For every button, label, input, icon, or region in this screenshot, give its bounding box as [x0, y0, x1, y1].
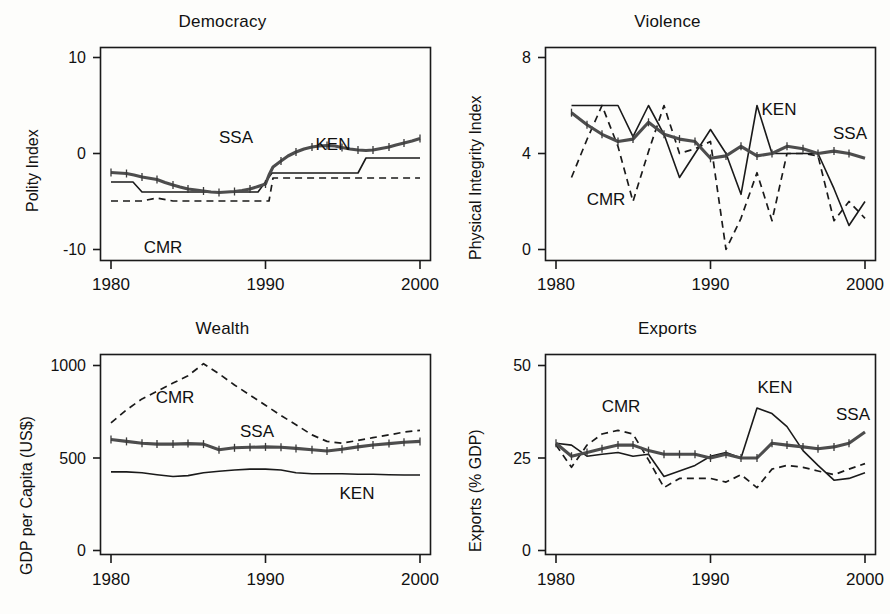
x-tick-label: 1990 [692, 570, 730, 589]
x-tick-label: 2000 [401, 275, 439, 294]
y-tick-label: 50 [513, 357, 531, 374]
series-annotation-cmr: CMR [587, 190, 626, 209]
x-tick-label: 1980 [92, 570, 130, 589]
plot-area-wealth: 1000 500 0 1980 1990 2000 [0, 307, 445, 614]
y-tick-label: 0 [77, 145, 86, 162]
panel-wealth: Wealth GDP per Capita (US$) 1000 500 0 1… [0, 307, 445, 614]
plot-area-violence: 8 4 0 1980 1990 2000 [445, 0, 890, 307]
y-tick-label: 10 [68, 49, 86, 66]
x-tick-label: 2000 [401, 570, 439, 589]
x-tick-label: 1980 [92, 275, 130, 294]
panel-democracy: Democracy Polity Index 10 0 -10 [0, 0, 445, 307]
series-annotation-ken: KEN [762, 100, 797, 119]
y-tick-label: -10 [63, 241, 86, 258]
series-annotation-ken: KEN [340, 484, 375, 503]
series-annotation-ssa: SSA [240, 422, 275, 441]
y-tick-label: 0 [522, 542, 531, 559]
x-tick-label: 1990 [247, 275, 285, 294]
series-annotation-ssa: SSA [833, 124, 868, 143]
x-tick-label: 2000 [846, 275, 884, 294]
series-annotation-cmr: CMR [156, 388, 195, 407]
series-line-ssa [111, 135, 420, 197]
plot-area-democracy: 10 0 -10 1980 1990 2000 [0, 0, 445, 307]
y-axis-ticks [538, 366, 546, 551]
x-tick-label: 1990 [247, 570, 285, 589]
series-annotation-ken: KEN [758, 378, 793, 397]
y-tick-label: 0 [77, 542, 86, 559]
series-line-ken [556, 408, 865, 480]
series-annotation-ssa: SSA [836, 405, 871, 424]
y-axis-ticks [93, 58, 101, 250]
series-ssa-point-markers [111, 135, 420, 197]
axes-frame [546, 48, 876, 261]
series-annotation-cmr: CMR [602, 397, 641, 416]
series-annotation-cmr: CMR [144, 238, 183, 257]
multi-panel-figure: Democracy Polity Index 10 0 -10 [0, 0, 890, 614]
axes-frame [101, 355, 431, 555]
series-line-ken [111, 469, 420, 476]
x-tick-label: 1990 [692, 275, 730, 294]
x-axis-ticks [556, 555, 865, 564]
x-axis-ticks [111, 555, 420, 564]
x-axis-ticks [556, 261, 865, 270]
y-tick-label: 0 [522, 241, 531, 258]
y-axis-ticks [538, 58, 546, 250]
panel-exports: Exports Exports (% GDP) 50 25 0 1980 [445, 307, 890, 614]
y-tick-label: 25 [513, 450, 531, 467]
series-annotation-ken: KEN [316, 135, 351, 154]
panel-violence: Violence Physical Integrity Index 8 4 0 … [445, 0, 890, 307]
y-tick-label: 1000 [50, 357, 86, 374]
x-tick-label: 1980 [537, 570, 575, 589]
y-tick-label: 500 [59, 450, 86, 467]
y-tick-label: 8 [522, 49, 531, 66]
series-annotation-ssa: SSA [219, 128, 254, 147]
series-line-ssa [556, 432, 865, 462]
x-tick-label: 1980 [537, 275, 575, 294]
series-line-cmr [572, 106, 866, 250]
y-axis-ticks [93, 366, 101, 551]
x-tick-label: 2000 [846, 570, 884, 589]
plot-area-exports: 50 25 0 1980 1990 2000 [445, 307, 890, 614]
series-line-ssa [572, 109, 866, 163]
x-axis-ticks [111, 261, 420, 270]
y-tick-label: 4 [522, 145, 531, 162]
axes-frame [101, 48, 431, 261]
